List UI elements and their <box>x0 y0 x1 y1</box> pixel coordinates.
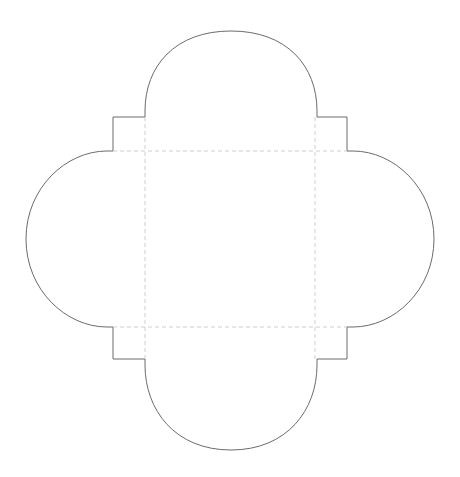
page-background <box>0 0 460 477</box>
envelope-template-drawing <box>0 0 460 477</box>
template-canvas <box>0 0 460 477</box>
